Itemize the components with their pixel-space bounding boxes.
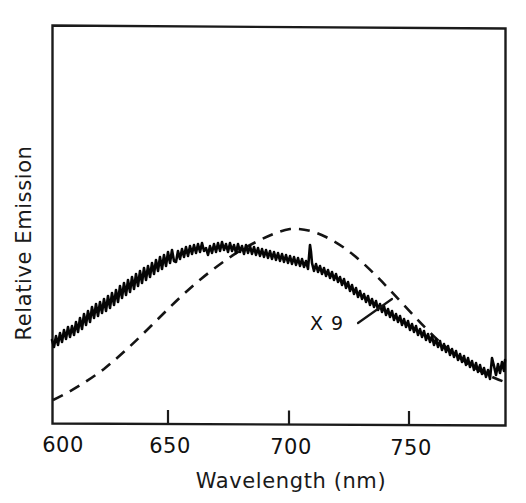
x-tick-label-600: 600: [42, 433, 84, 457]
emission-spectrum-figure: X 9 600 650 700 750 Wavelength (nm) Rela…: [0, 0, 526, 503]
x-tick-label-750: 750: [390, 436, 432, 460]
x-tick-label-700: 700: [270, 435, 312, 459]
x-tick-label-650: 650: [149, 434, 191, 458]
y-axis-title: Relative Emission: [12, 146, 36, 341]
x9-annotation-label: X 9: [310, 312, 344, 334]
x-axis-title: Wavelength (nm): [196, 469, 386, 493]
